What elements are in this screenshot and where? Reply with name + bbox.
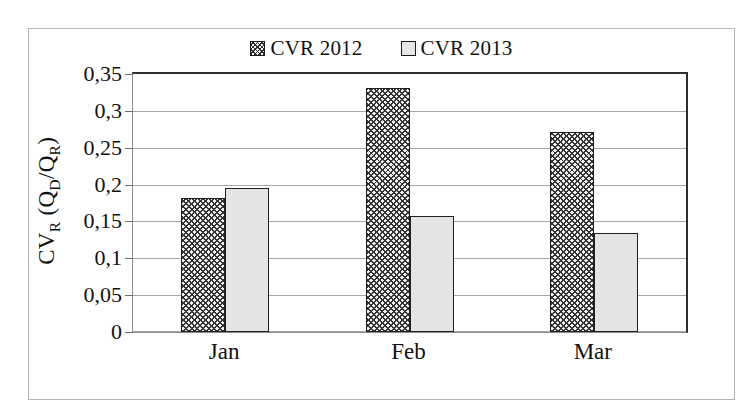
bar-group-jan xyxy=(181,74,269,332)
y-axis-tick xyxy=(125,221,133,222)
legend-entry-cvr-2013[interactable]: CVR 2013 xyxy=(401,36,513,61)
plot-area: 00,050,10,150,20,250,30,35 xyxy=(132,72,688,333)
y-axis-tick xyxy=(125,148,133,149)
bar-group-feb xyxy=(366,74,454,332)
y-axis-tick-label: 0,15 xyxy=(84,208,123,234)
category-axis: JanFebMar xyxy=(132,339,685,379)
y-axis-title-text: CVR (QD/QR) xyxy=(34,137,64,265)
bar-jan-cvr-2013[interactable] xyxy=(225,188,269,332)
bar-feb-cvr-2013[interactable] xyxy=(410,216,454,332)
y-axis-tick xyxy=(125,111,133,112)
y-axis-tick-label: 0,3 xyxy=(95,98,123,124)
category-label-mar: Mar xyxy=(574,339,612,365)
y-axis-tick-label: 0,2 xyxy=(95,172,123,198)
bar-jan-cvr-2012[interactable] xyxy=(181,198,225,332)
y-axis-title-main3: /Q xyxy=(34,156,59,180)
y-axis-title-main4: ) xyxy=(34,137,59,145)
y-axis-title-sub3: R xyxy=(46,145,63,156)
chart-legend: CVR 2012 CVR 2013 xyxy=(29,31,734,65)
y-axis-tick xyxy=(125,295,133,296)
y-axis-tick-label: 0 xyxy=(111,319,122,345)
crosshatch-swatch-icon xyxy=(250,41,265,56)
chart-figure-frame: CVR 2012 CVR 2013 CVR (QD/QR) 00,050,10,… xyxy=(28,28,735,400)
bars-layer xyxy=(133,74,686,332)
y-axis-tick-label: 0,05 xyxy=(84,282,123,308)
y-axis-tick xyxy=(125,74,133,75)
y-axis-title-main2: (Q xyxy=(34,191,59,222)
legend-label-cvr-2012: CVR 2012 xyxy=(270,36,362,61)
y-axis-tick xyxy=(125,332,133,333)
gray-swatch-icon xyxy=(401,41,416,56)
category-label-feb: Feb xyxy=(391,339,426,365)
y-axis-title-sub1: R xyxy=(46,222,63,233)
y-axis-tick-label: 0,1 xyxy=(95,245,123,271)
category-label-jan: Jan xyxy=(209,339,240,365)
y-axis-title: CVR (QD/QR) xyxy=(31,72,67,330)
bar-group-mar xyxy=(550,74,638,332)
y-axis-tick-label: 0,35 xyxy=(84,61,123,87)
y-axis-tick-label: 0,25 xyxy=(84,135,123,161)
bar-mar-cvr-2013[interactable] xyxy=(594,233,638,332)
y-axis-title-main1: CV xyxy=(34,233,59,266)
legend-entry-cvr-2012[interactable]: CVR 2012 xyxy=(250,36,362,61)
y-axis-title-sub2: D xyxy=(46,179,63,191)
y-axis-tick xyxy=(125,258,133,259)
bar-feb-cvr-2012[interactable] xyxy=(366,88,410,332)
bar-mar-cvr-2012[interactable] xyxy=(550,132,594,332)
legend-label-cvr-2013: CVR 2013 xyxy=(421,36,513,61)
y-axis-tick xyxy=(125,185,133,186)
